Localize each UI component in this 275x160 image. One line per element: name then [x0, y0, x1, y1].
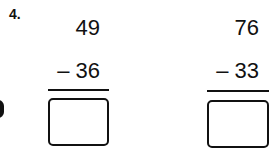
problem-number: 4.: [9, 6, 21, 22]
answer-box[interactable]: [207, 100, 269, 148]
subtrahend: – 33: [205, 58, 259, 84]
answer-rule: [207, 90, 269, 92]
cropped-mark: [0, 100, 4, 118]
answer-rule: [48, 89, 109, 91]
answer-box[interactable]: [48, 98, 109, 146]
minuend: 49: [48, 15, 100, 41]
subtrahend: – 36: [46, 58, 100, 84]
minuend: 76: [207, 15, 259, 41]
